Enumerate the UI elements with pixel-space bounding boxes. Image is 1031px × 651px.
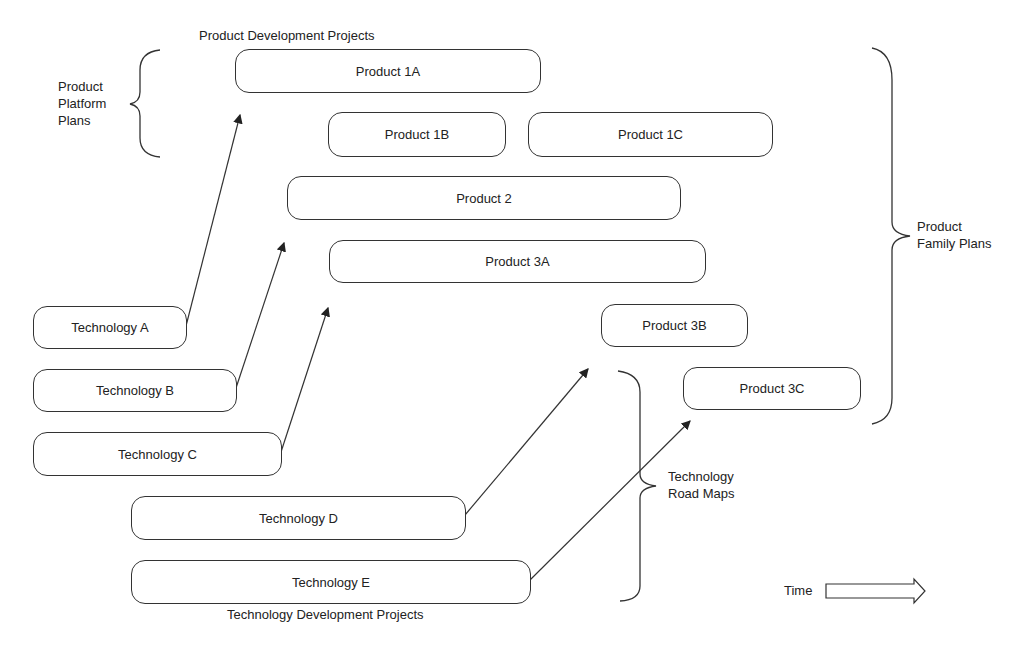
label-technology-road-maps: Technology Road Maps xyxy=(668,468,734,502)
product-2-box[interactable]: Product 2 xyxy=(287,176,681,220)
title-technology-development-projects: Technology Development Projects xyxy=(227,606,424,623)
brace-roadmaps xyxy=(618,371,656,601)
technology-d-box[interactable]: Technology D xyxy=(131,496,466,540)
label-product-family-plans: Product Family Plans xyxy=(917,218,991,252)
label-line: Plans xyxy=(58,112,106,129)
arrow-tech-c xyxy=(281,308,328,452)
label-line: Family Plans xyxy=(917,235,991,252)
product-1b-box[interactable]: Product 1B xyxy=(328,112,506,157)
arrow-tech-d xyxy=(465,369,588,515)
label-line: Technology xyxy=(668,468,734,485)
time-arrow-icon xyxy=(826,579,925,603)
title-product-development-projects: Product Development Projects xyxy=(199,27,375,44)
technology-b-box[interactable]: Technology B xyxy=(33,369,237,412)
product-3b-box[interactable]: Product 3B xyxy=(601,304,748,347)
label-line: Platform xyxy=(58,95,106,112)
time-label: Time xyxy=(784,582,812,599)
arrow-tech-b xyxy=(236,243,284,388)
arrow-tech-a xyxy=(186,115,240,326)
arrow-tech-e xyxy=(530,421,690,580)
label-line: Product xyxy=(917,218,991,235)
brace-family xyxy=(872,48,910,424)
product-3a-box[interactable]: Product 3A xyxy=(329,240,706,283)
product-1a-box[interactable]: Product 1A xyxy=(235,49,541,93)
technology-e-box[interactable]: Technology E xyxy=(131,560,531,604)
technology-c-box[interactable]: Technology C xyxy=(33,432,282,476)
product-3c-box[interactable]: Product 3C xyxy=(683,367,861,410)
label-line: Product xyxy=(58,78,106,95)
technology-a-box[interactable]: Technology A xyxy=(33,306,187,349)
label-line: Road Maps xyxy=(668,485,734,502)
label-product-platform-plans: Product Platform Plans xyxy=(58,78,106,129)
brace-platform xyxy=(130,50,160,157)
product-1c-box[interactable]: Product 1C xyxy=(528,112,773,157)
